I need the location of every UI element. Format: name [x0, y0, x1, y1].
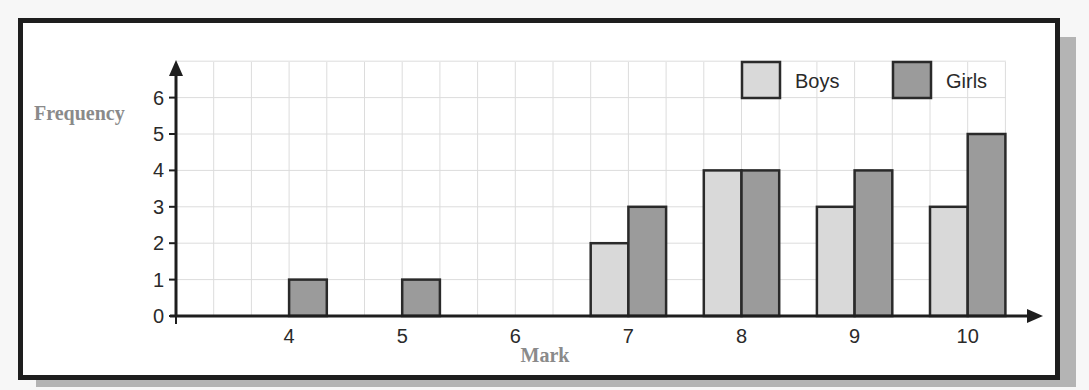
x-axis-label: Mark [521, 344, 571, 366]
x-tick-label: 9 [849, 325, 860, 347]
bar-girls-9 [855, 170, 893, 316]
x-tick-label: 4 [284, 325, 295, 347]
legend-swatch-boys [742, 62, 780, 98]
x-ticks: 45678910 [284, 325, 979, 347]
x-tick-label: 10 [957, 325, 979, 347]
bar-girls-8 [742, 170, 780, 316]
bar-chart: 0123456 45678910 Frequency Mark Boys Gir… [0, 0, 1089, 390]
y-axis-arrow-icon [169, 60, 183, 76]
x-tick-label: 6 [510, 325, 521, 347]
y-tick-label: 5 [153, 123, 164, 145]
y-tick-label: 1 [153, 269, 164, 291]
bar-girls-7 [628, 207, 666, 316]
bar-boys-10 [930, 207, 968, 316]
x-tick-label: 7 [623, 325, 634, 347]
y-tick-label: 4 [153, 159, 164, 181]
bar-girls-5 [402, 280, 440, 316]
bar-boys-9 [817, 207, 855, 316]
legend-label-boys: Boys [795, 70, 839, 92]
y-ticks: 0123456 [153, 87, 176, 327]
bars [289, 134, 1005, 316]
y-tick-label: 0 [153, 305, 164, 327]
bar-boys-7 [591, 243, 629, 316]
bar-boys-8 [704, 170, 742, 316]
y-tick-label: 6 [153, 87, 164, 109]
legend: Boys Girls [742, 62, 987, 98]
bar-girls-4 [289, 280, 327, 316]
y-axis-label: Frequency [34, 102, 125, 125]
x-tick-label: 8 [736, 325, 747, 347]
bar-girls-10 [968, 134, 1006, 316]
x-axis-arrow-icon [1027, 309, 1043, 323]
y-tick-label: 2 [153, 232, 164, 254]
y-tick-label: 3 [153, 196, 164, 218]
legend-swatch-girls [893, 62, 931, 98]
legend-label-girls: Girls [946, 70, 987, 92]
x-tick-label: 5 [397, 325, 408, 347]
